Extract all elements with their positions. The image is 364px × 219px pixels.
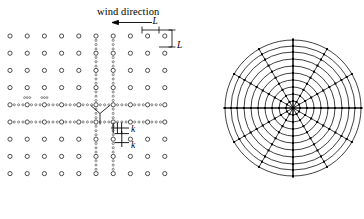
turbine-node — [146, 51, 150, 55]
polar-node — [298, 104, 300, 106]
turbine-node — [111, 103, 115, 107]
refined-mesh-node — [95, 125, 97, 127]
polar-node — [316, 93, 318, 95]
turbine-node — [60, 103, 64, 107]
turbine-node — [8, 103, 12, 107]
refined-mesh-node — [52, 104, 54, 106]
refined-mesh-node — [112, 112, 114, 114]
polar-node — [292, 156, 294, 158]
refined-mesh-node — [48, 121, 50, 123]
turbine-node — [8, 51, 12, 55]
turbine-node — [77, 137, 81, 141]
turbine-node — [42, 137, 46, 141]
polar-node — [278, 107, 280, 109]
refined-mesh-node — [39, 104, 41, 106]
dimension-marker-L-vertical — [159, 30, 176, 47]
refined-mesh-node — [159, 121, 161, 123]
refined-mesh-node — [95, 134, 97, 136]
polar-node — [292, 114, 294, 116]
turbine-node — [25, 68, 29, 72]
refined-mesh-node — [95, 56, 97, 58]
refined-mesh-node — [112, 151, 114, 153]
polar-node — [274, 97, 276, 99]
turbine-node — [60, 68, 64, 72]
refined-mesh-node — [151, 121, 153, 123]
polar-node — [310, 118, 312, 120]
polar-node — [292, 169, 294, 171]
turbine-node — [94, 103, 98, 107]
polar-node — [250, 132, 252, 134]
refined-mesh-node — [121, 104, 123, 106]
refined-mesh-node — [134, 104, 136, 106]
turbine-node — [111, 68, 115, 72]
turbine-node — [128, 172, 132, 176]
polar-node — [304, 114, 306, 116]
refined-mesh-node — [138, 104, 140, 106]
dimension-marker-k-vertical — [115, 131, 130, 147]
polar-node — [346, 76, 348, 78]
refined-mesh-node — [95, 48, 97, 50]
turbine-node — [25, 137, 29, 141]
polar-node — [292, 45, 294, 47]
refined-mesh-node — [112, 56, 114, 58]
polar-node — [292, 135, 294, 137]
polar-node — [292, 142, 294, 144]
turbine-node — [94, 68, 98, 72]
refined-mesh-node — [112, 142, 114, 144]
refined-mesh-node — [22, 121, 24, 123]
refined-mesh-node — [35, 121, 37, 123]
polar-node — [257, 107, 259, 109]
refined-mesh-node — [134, 121, 136, 123]
refined-mesh-node — [13, 104, 15, 106]
wind-direction-label: wind direction — [97, 7, 159, 18]
refined-mesh-node — [30, 121, 32, 123]
turbine-node — [146, 172, 150, 176]
polar-node — [244, 135, 246, 137]
polar-node — [292, 121, 294, 123]
polar-node — [320, 59, 322, 61]
turbine-node — [77, 120, 81, 124]
polar-node — [261, 161, 263, 163]
refined-mesh-node — [112, 108, 114, 110]
turbine-node — [94, 86, 98, 90]
turbine-node — [128, 68, 132, 72]
wind-farm-grid-panel — [8, 20, 176, 175]
turbine-node — [8, 137, 12, 141]
polar-node — [224, 107, 226, 109]
refined-mesh-node — [65, 104, 67, 106]
polar-node — [320, 107, 322, 109]
refined-mesh-node — [104, 121, 106, 123]
polar-node — [328, 86, 330, 88]
refined-mesh-node — [125, 104, 127, 106]
refined-mesh-node — [116, 104, 118, 106]
refined-mesh-node — [112, 160, 114, 162]
polar-node — [292, 39, 294, 41]
refined-mesh-node — [30, 104, 32, 106]
turbine-node — [163, 103, 167, 107]
polar-node — [303, 125, 305, 127]
refined-mesh-node — [95, 39, 97, 41]
polar-node — [322, 90, 324, 92]
refined-mesh-node — [86, 104, 88, 106]
refined-mesh-node — [95, 95, 97, 97]
polar-node — [310, 77, 312, 79]
refined-mesh-node — [125, 121, 127, 123]
polar-node — [292, 100, 294, 102]
polar-node — [282, 89, 284, 91]
turbine-node — [8, 68, 12, 72]
refined-mesh-node — [18, 121, 20, 123]
refined-mesh-node — [112, 168, 114, 170]
polar-node — [326, 166, 328, 168]
polar-node — [289, 101, 291, 103]
refined-mesh-node — [65, 121, 67, 123]
turbine-node — [60, 120, 64, 124]
turbine-node — [8, 34, 12, 38]
refined-mesh-node — [82, 121, 84, 123]
turbine-node — [60, 34, 64, 38]
refined-mesh-node — [52, 121, 54, 123]
polar-node — [238, 138, 240, 140]
turbine-node — [111, 51, 115, 55]
polar-node — [327, 107, 329, 109]
turbine-node — [128, 51, 132, 55]
refined-mesh-node — [39, 121, 41, 123]
